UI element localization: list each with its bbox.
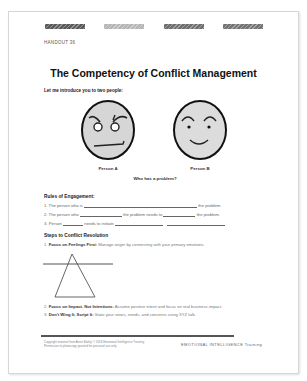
fill-blank[interactable]	[80, 212, 122, 217]
rule-number: 3.	[44, 221, 48, 226]
rule-2: 2. The person who the problem needs to t…	[44, 212, 220, 217]
smiling-face-icon	[172, 99, 228, 161]
step-title: Focus on Feelings First:	[49, 242, 97, 247]
rule-text: needs to initiate	[84, 221, 113, 226]
step-text: Assume positive intent and focus on real…	[115, 304, 223, 309]
header-bar-3	[164, 24, 204, 29]
rule-text: The person who is	[49, 203, 83, 208]
step-number: 1.	[44, 242, 48, 247]
handout-label: HANDOUT 36	[44, 40, 75, 45]
copyright-line-2: Permission to photocopy granted for pers…	[44, 345, 144, 349]
footer-divider	[41, 335, 234, 337]
header-bar-1	[45, 24, 85, 29]
step-title: Don't Wing It, Script It:	[49, 312, 94, 317]
handout-page	[8, 11, 299, 374]
person-a-label: Person A	[88, 166, 128, 171]
page-title: The Competency of Conflict Management	[0, 67, 307, 79]
rule-text: The person who	[49, 212, 79, 217]
rule-1: 1. The person who is the problem.	[44, 203, 221, 208]
rule-text: Person	[49, 221, 62, 226]
question-text: Who has a problem?	[120, 176, 190, 181]
footer-copyright: Copyright material from Anne Bailey © 20…	[44, 341, 144, 349]
step-2: 2. Focus on Impact, Not Intentions: Assu…	[44, 304, 222, 309]
header-bar-2	[104, 24, 144, 29]
rule-number: 2.	[44, 212, 48, 217]
fill-blank[interactable]	[63, 221, 83, 226]
footer-brand: EMOTIONAL INTELLIGENCE Training	[181, 342, 262, 347]
rule-text: the problem.	[197, 212, 220, 217]
step-3: 3. Don't Wing It, Script It: State your …	[44, 312, 196, 317]
step-1: 1. Focus on Feelings First: Manage anger…	[44, 242, 205, 247]
rules-heading: Rules of Engagement:	[44, 194, 95, 199]
fill-blank[interactable]	[167, 221, 225, 226]
step-number: 2.	[44, 304, 48, 309]
rule-text: the problem needs to	[123, 212, 162, 217]
person-b-label: Person B	[180, 166, 220, 171]
steps-heading: Steps to Conflict Resolution	[44, 233, 108, 238]
intro-text: Let me introduce you to two people:	[44, 88, 123, 93]
step-text: State your views, needs, and concerns us…	[95, 312, 196, 317]
step-text: Manage anger by connecting with your pri…	[98, 242, 204, 247]
fill-blank[interactable]	[163, 212, 195, 217]
step-number: 3.	[44, 312, 48, 317]
rule-text: the problem.	[198, 203, 221, 208]
iceberg-triangle-diagram	[42, 252, 114, 300]
rule-number: 1.	[44, 203, 48, 208]
fill-blank[interactable]	[84, 203, 197, 208]
rule-3: 3. Person needs to initiate	[44, 221, 225, 226]
fill-blank[interactable]	[115, 221, 163, 226]
angry-face-icon	[80, 99, 136, 161]
header-bar-4	[223, 24, 263, 29]
step-title: Focus on Impact, Not Intentions:	[49, 304, 114, 309]
